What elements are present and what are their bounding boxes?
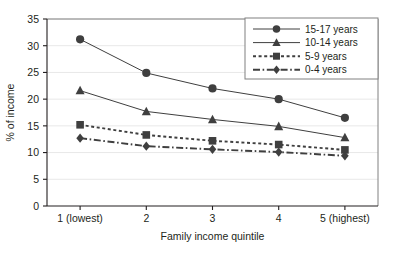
data-point-2-2: [209, 137, 217, 145]
x-tick-label: 4: [276, 212, 282, 224]
data-point-0-0: [76, 35, 84, 43]
legend-marker-0: [273, 25, 281, 33]
x-axis-title: Family income quintile: [161, 230, 265, 242]
y-tick-label: 10: [27, 146, 39, 158]
y-tick-label: 35: [27, 13, 39, 25]
legend-marker-2: [273, 53, 280, 60]
data-point-2-3: [275, 141, 283, 149]
x-tick-label: 5 (highest): [320, 212, 370, 224]
y-tick-label: 30: [27, 40, 39, 52]
data-point-2-0: [76, 121, 84, 129]
data-point-0-4: [341, 114, 349, 122]
y-tick-label: 25: [27, 66, 39, 78]
data-point-0-3: [275, 95, 283, 103]
legend-label-2: 5-9 years: [305, 51, 347, 62]
chart-figure: 051015202530351 (lowest)2345 (highest)Fa…: [0, 0, 397, 267]
data-point-0-1: [142, 69, 150, 77]
x-tick-label: 1 (lowest): [57, 212, 103, 224]
legend-label-1: 10-14 years: [305, 37, 358, 48]
legend-label-0: 15-17 years: [305, 24, 358, 35]
legend-label-3: 0-4 years: [305, 64, 347, 75]
x-tick-label: 3: [210, 212, 216, 224]
y-axis-title: % of income: [4, 83, 16, 141]
line-chart: 051015202530351 (lowest)2345 (highest)Fa…: [0, 0, 397, 267]
y-tick-label: 15: [27, 120, 39, 132]
x-tick-label: 2: [143, 212, 149, 224]
data-point-2-1: [143, 131, 151, 139]
y-tick-label: 20: [27, 93, 39, 105]
data-point-0-2: [208, 84, 216, 92]
y-tick-label: 5: [33, 173, 39, 185]
y-tick-label: 0: [33, 200, 39, 212]
